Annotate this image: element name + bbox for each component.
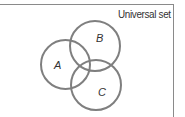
set-b-circle bbox=[70, 21, 120, 71]
venn-diagram: A B C bbox=[0, 0, 185, 117]
set-c-label: C bbox=[98, 86, 106, 98]
set-b-label: B bbox=[96, 32, 103, 44]
set-a-label: A bbox=[53, 59, 61, 71]
